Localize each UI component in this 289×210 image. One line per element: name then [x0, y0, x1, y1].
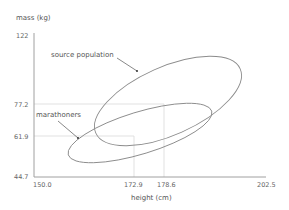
x-tick-178-6: 178.6	[157, 181, 176, 189]
marathoners-arrow	[58, 121, 78, 138]
y-tick-77-2: 77.2	[14, 101, 28, 109]
y-tick-122: 122	[16, 32, 28, 40]
x-tick-172-9: 172.9	[124, 181, 143, 189]
y-tick-61-9: 61.9	[14, 133, 28, 141]
marathoners-label: marathoners	[36, 111, 81, 119]
y-tick-44-7: 44.7	[14, 173, 28, 181]
x-tick-150: 150.0	[33, 181, 52, 189]
chart-canvas: mass (kg) 122 77.2 61.9 44.7 150.0 172.9…	[0, 0, 289, 210]
x-tick-202-5: 202.5	[257, 181, 276, 189]
source-population-arrow	[117, 58, 137, 71]
source-population-label: source population	[51, 51, 114, 59]
x-axis-label: height (cm)	[131, 194, 172, 202]
marathoners-ellipse	[62, 91, 218, 175]
marathoners-arrow-head	[77, 137, 79, 139]
source-population-arrow-head	[136, 70, 138, 72]
y-axis-label: mass (kg)	[16, 14, 51, 22]
